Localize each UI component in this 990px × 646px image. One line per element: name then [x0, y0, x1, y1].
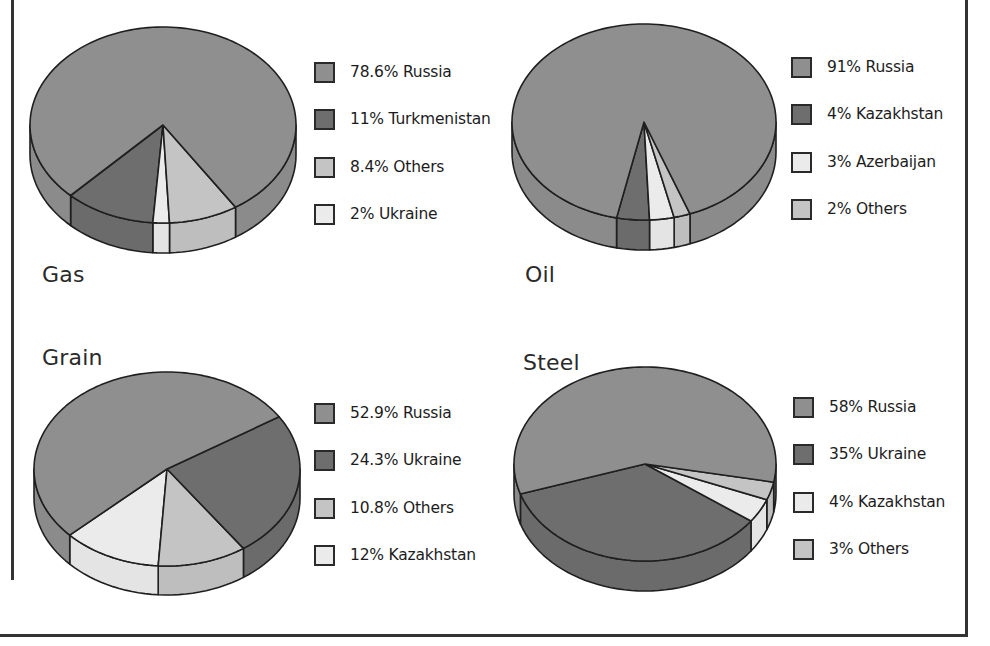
legend-label: 2% Others [827, 200, 907, 218]
chart-title-grain: Grain [42, 345, 103, 370]
legend-label: 3% Others [829, 540, 909, 558]
legend-swatch [314, 62, 335, 83]
legend-label: 91% Russia [827, 58, 914, 76]
legend-swatch [793, 539, 814, 560]
pie-grain [34, 372, 300, 595]
legend-swatch [791, 104, 812, 125]
legend-label: 52.9% Russia [350, 404, 452, 422]
legend-swatch [314, 450, 335, 471]
legend-swatch [314, 204, 335, 225]
pie-side-light [650, 217, 675, 250]
legend-swatch [314, 403, 335, 424]
pie-gas [30, 27, 296, 253]
legend-swatch [793, 397, 814, 418]
legend-label: 4% Kazakhstan [827, 105, 943, 123]
pie-side-dark [617, 218, 650, 250]
legend-swatch [791, 152, 812, 173]
legend-label: 4% Kazakhstan [829, 493, 945, 511]
legend-label: 11% Turkmenistan [350, 110, 491, 128]
pie-steel [514, 367, 776, 591]
legend-label: 10.8% Others [350, 499, 454, 517]
legend-label: 12% Kazakhstan [350, 546, 476, 564]
legend-label: 8.4% Others [350, 158, 444, 176]
chart-title-gas: Gas [42, 262, 85, 287]
legend-swatch [314, 498, 335, 519]
legend-swatch [314, 109, 335, 130]
pie-side-others [674, 214, 690, 248]
legend-label: 58% Russia [829, 398, 916, 416]
legend-label: 3% Azerbaijan [827, 153, 936, 171]
chart-title-steel: Steel [523, 350, 580, 375]
legend-swatch [314, 157, 335, 178]
legend-swatch [793, 444, 814, 465]
chart-title-oil: Oil [525, 262, 555, 287]
legend-label: 78.6% Russia [350, 63, 452, 81]
legend-swatch [314, 545, 335, 566]
legend-swatch [791, 57, 812, 78]
legend-label: 2% Ukraine [350, 205, 437, 223]
legend-label: 35% Ukraine [829, 445, 926, 463]
legend-swatch [793, 492, 814, 513]
pie-oil [512, 24, 776, 250]
legend-swatch [791, 199, 812, 220]
pie-side-light [153, 223, 170, 253]
legend-label: 24.3% Ukraine [350, 451, 461, 469]
